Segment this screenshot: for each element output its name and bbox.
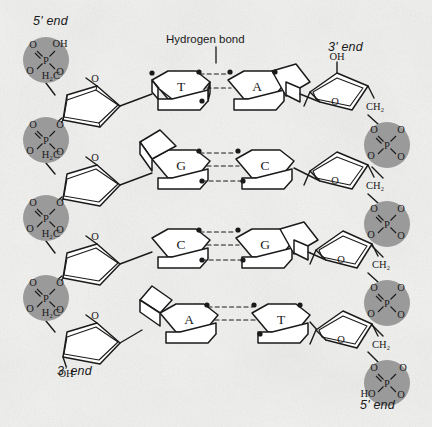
atom-O: O xyxy=(29,197,37,208)
base-letter-C: C xyxy=(176,237,185,252)
atom-P: P xyxy=(384,378,390,389)
atom-O: O xyxy=(56,119,64,130)
atom-P: P xyxy=(43,213,49,224)
atom-CH2: CH₂ xyxy=(372,259,391,270)
dna-diagram-canvas: O OH P O O P O O O O P O O O O P O O O O… xyxy=(0,0,432,427)
atom-O: O xyxy=(397,230,405,241)
atom-CH2: CH₂ xyxy=(366,180,385,191)
atom-O: O xyxy=(397,282,405,293)
atom-OH: OH xyxy=(52,38,68,49)
atom-O: O xyxy=(331,96,339,107)
atom-H2C: H₂C xyxy=(42,307,60,318)
atom-P: P xyxy=(384,298,390,309)
atom-O: O xyxy=(26,145,34,156)
atom-O: O xyxy=(370,282,378,293)
base-letter-G: G xyxy=(260,237,270,252)
atom-O: O xyxy=(397,203,405,214)
atom-HO: HO xyxy=(360,388,376,399)
atom-O: O xyxy=(367,229,375,240)
atom-O: O xyxy=(399,362,407,373)
atom-O: O xyxy=(397,151,405,162)
base-letter-G: G xyxy=(176,158,186,173)
atom-O: O xyxy=(91,231,99,242)
atom-CH2: CH₂ xyxy=(372,339,391,350)
atom-OH: OH xyxy=(329,51,345,62)
atom-O: O xyxy=(56,197,64,208)
atom-O: O xyxy=(331,175,339,186)
atom-O: O xyxy=(26,303,34,314)
atom-O: O xyxy=(337,334,345,345)
atom-O: O xyxy=(370,203,378,214)
atom-O: O xyxy=(397,309,405,320)
base-letter-A: A xyxy=(252,79,262,94)
atom-P: P xyxy=(43,135,49,146)
atom-O: O xyxy=(397,124,405,135)
atom-O: O xyxy=(367,150,375,161)
base-letter-T: T xyxy=(277,312,286,327)
atom-H2C: H₂C xyxy=(42,70,60,81)
atom-CH2: CH₂ xyxy=(366,101,385,112)
atom-O: O xyxy=(370,124,378,135)
base-letter-T: T xyxy=(177,79,186,94)
atom-O: O xyxy=(370,362,378,373)
atom-O: O xyxy=(26,65,34,76)
atom-O: O xyxy=(91,310,99,321)
atom-O: O xyxy=(397,389,405,400)
atom-O: O xyxy=(91,73,99,84)
dna-diagram: O OH P O O P O O O O P O O O O P O O O O… xyxy=(0,0,432,427)
atom-P: P xyxy=(43,55,49,66)
atom-P: P xyxy=(384,219,390,230)
atom-O: O xyxy=(29,119,37,130)
atom-O: O xyxy=(337,254,345,265)
atom-O: O xyxy=(367,308,375,319)
atom-O: O xyxy=(29,277,37,288)
atom-O: O xyxy=(91,152,99,163)
atom-O: O xyxy=(26,223,34,234)
base-letter-A: A xyxy=(184,312,194,327)
atom-H2C: H₂C xyxy=(42,149,60,160)
atom-P: P xyxy=(384,140,390,151)
base-letter-C: C xyxy=(260,158,269,173)
atom-O: O xyxy=(29,39,37,50)
atom-P: P xyxy=(43,293,49,304)
atom-OH: OH xyxy=(58,368,74,379)
atom-O: O xyxy=(56,277,64,288)
atom-H2C: H₂C xyxy=(42,228,60,239)
